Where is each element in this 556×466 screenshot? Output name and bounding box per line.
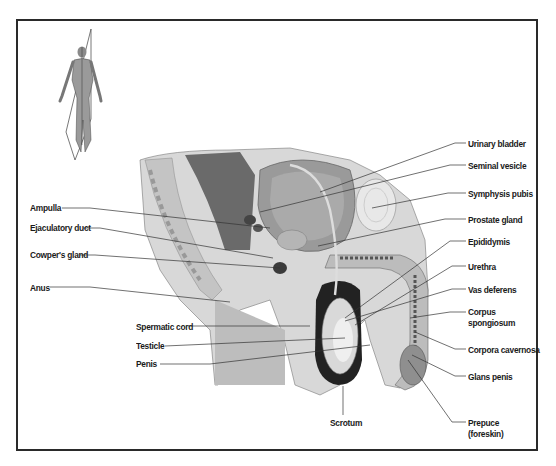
label-spermatic-cord: Spermatic cord bbox=[136, 321, 193, 332]
label-testicle: Testicle bbox=[136, 340, 164, 351]
label-urinary-bladder: Urinary bladder bbox=[468, 138, 526, 149]
label-anus: Anus bbox=[30, 282, 50, 293]
label-penis: Penis bbox=[136, 358, 157, 369]
label-glans-penis: Glans penis bbox=[468, 371, 512, 382]
orientation-figure-icon bbox=[60, 29, 101, 160]
sagittal-section-art bbox=[140, 148, 428, 395]
anatomy-illustration bbox=[0, 0, 556, 466]
label-seminal-vesicle: Seminal vesicle bbox=[468, 160, 526, 171]
label-symphysis-pubis: Symphysis pubis bbox=[468, 188, 533, 199]
label-scrotum: Scrotum bbox=[330, 417, 362, 428]
label-vas-deferens: Vas deferens bbox=[468, 284, 516, 295]
label-prepuce: Prepuce (foreskin) bbox=[468, 417, 503, 439]
label-cowpers-gland: Cowper's gland bbox=[30, 249, 88, 260]
label-corpus-spongiosum: Corpus spongiosum bbox=[468, 306, 515, 328]
label-ampulla: Ampulla bbox=[30, 202, 61, 213]
label-prostate-gland: Prostate gland bbox=[468, 214, 522, 225]
label-urethra: Urethra bbox=[468, 261, 496, 272]
label-corpora-cavernosa: Corpora cavernosa bbox=[468, 344, 540, 355]
label-epididymis: Epididymis bbox=[468, 236, 510, 247]
label-ejaculatory-duct: Ejaculatory duct bbox=[30, 222, 91, 233]
